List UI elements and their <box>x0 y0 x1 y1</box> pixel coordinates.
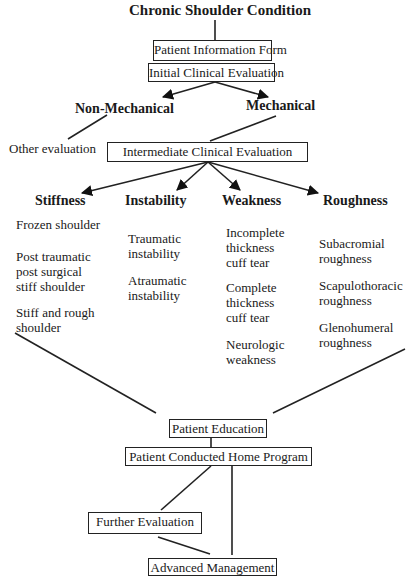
roughness-item: Glenohumeral roughness <box>319 320 393 350</box>
further-evaluation-box: Further Evaluation <box>88 512 202 534</box>
category-stiffness: Stiffness <box>35 193 86 209</box>
patient-information-form-box: Patient Information Form <box>153 40 272 61</box>
weakness-item: Neurologic weakness <box>226 337 284 367</box>
instability-item: Atraumatic instability <box>128 273 186 303</box>
weakness-item: Complete thickness cuff tear <box>226 280 277 325</box>
advanced-management-box: Advanced Management <box>148 558 277 576</box>
patient-conducted-home-program-box: Patient Conducted Home Program <box>125 447 312 466</box>
intermediate-clinical-evaluation-box: Intermediate Clinical Evaluation <box>107 142 308 162</box>
stiffness-item: Stiff and rough shoulder <box>16 305 94 335</box>
roughness-item: Subacromial roughness <box>319 236 385 266</box>
stiffness-item: Frozen shoulder <box>16 217 100 232</box>
roughness-item: Scapulothoracic roughness <box>319 278 403 308</box>
weakness-item: Incomplete thickness cuff tear <box>226 225 284 270</box>
other-evaluation-label: Other evaluation <box>9 141 96 157</box>
category-weakness: Weakness <box>222 193 281 209</box>
stiffness-item: Post traumatic post surgical stiff shoul… <box>16 249 91 294</box>
initial-clinical-evaluation-box: Initial Clinical Evaluation <box>148 63 275 82</box>
instability-item: Traumatic instability <box>128 231 181 261</box>
diagram-title: Chronic Shoulder Condition <box>129 2 311 19</box>
non-mechanical-label: Non-Mechanical <box>75 101 174 117</box>
patient-education-box: Patient Education <box>169 419 267 438</box>
category-instability: Instability <box>125 193 186 209</box>
mechanical-label: Mechanical <box>246 98 315 114</box>
category-roughness: Roughness <box>323 193 388 209</box>
